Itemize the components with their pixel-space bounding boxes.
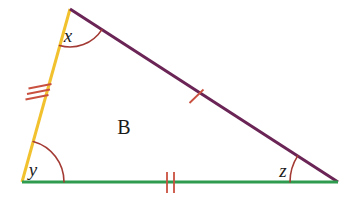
angle-y-arc	[33, 142, 64, 183]
triangle-diagram: x y z B	[0, 0, 348, 202]
angle-z-arc	[290, 156, 298, 182]
angle-label-z: z	[278, 160, 287, 181]
region-label-b: B	[117, 116, 130, 138]
triangle-canvas: x y z B	[0, 0, 348, 202]
angle-label-x: x	[63, 25, 73, 46]
angle-label-y: y	[27, 159, 38, 180]
